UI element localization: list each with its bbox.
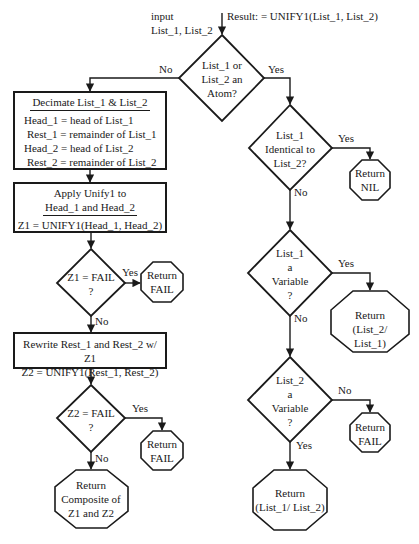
var1-yes-arrow: [332, 273, 370, 290]
decimate-line-3: Head_2 = head of List_2: [16, 141, 164, 155]
z1-yes-label: Yes: [122, 266, 138, 279]
var1-return-line-2: (List_2/ List_1): [346, 322, 395, 350]
atom-no-label: No: [159, 63, 172, 76]
var2-line-1: List_2: [272, 373, 309, 387]
call-signature: Result: = UNIFY1(List_1, List_2): [227, 10, 378, 23]
rewrite-box-text: Rewrite Rest_1 and Rest_2 w/ Z1 Z2 = UNI…: [16, 337, 164, 379]
input-label: input: [151, 10, 174, 23]
var1-return-line-1: Return: [346, 308, 395, 322]
atom-line-1: List_1 or: [201, 58, 242, 72]
z1-return-text: Return FAIL: [147, 268, 177, 296]
apply-box-text: Apply Unify1 to Head_1 and Head_2 Z1 = U…: [16, 186, 164, 232]
var2-line-3: Variable: [272, 401, 309, 415]
z1-no-label: No: [95, 315, 108, 328]
var1-decision-text: List_1 a Variable ?: [272, 246, 309, 302]
var1-line-3: Variable: [272, 274, 309, 288]
rewrite-line-1: Rewrite Rest_1 and Rest_2 w/ Z1: [16, 337, 164, 365]
var2-no-arrow: [332, 400, 370, 412]
var1-line-2: a: [272, 260, 309, 274]
var1-no-label: No: [294, 312, 307, 325]
var2-return-text: Return (List_1/ List_2): [255, 486, 324, 514]
var2-fail-return-text: Return FAIL: [355, 420, 385, 448]
atom-line-2: List_2 an: [201, 72, 242, 86]
z1-line-1: Z1 = FAIL: [67, 270, 115, 284]
atom-yes-arrow: [264, 78, 290, 104]
identical-yes-label: Yes: [338, 132, 354, 145]
atom-decision-text: List_1 or List_2 an Atom?: [201, 58, 242, 100]
composite-return-text: Return Composite of Z1 and Z2: [61, 478, 121, 520]
var1-yes-label: Yes: [338, 257, 354, 270]
var2-decision-text: List_2 a Variable ?: [272, 373, 309, 429]
apply-formula: Z1 = UNIFY1(Head_1, Head_2): [16, 218, 164, 232]
z1-return-line-2: FAIL: [147, 282, 177, 296]
z1-decision-text: Z1 = FAIL ?: [67, 270, 115, 298]
nil-return-text: Return NIL: [355, 166, 385, 194]
var1-line-1: List_1: [272, 246, 309, 260]
var2-no-label: No: [338, 384, 351, 397]
decimate-line-1: Head_1 = head of List_1: [16, 113, 164, 127]
identical-no-label: No: [294, 186, 307, 199]
z2-decision-text: Z2 = FAIL ?: [67, 406, 115, 434]
var1-line-4: ?: [272, 288, 309, 302]
z2-line-2: ?: [67, 420, 115, 434]
decimate-line-4: Rest_2 = remainder of List_2: [16, 155, 164, 169]
atom-line-3: Atom?: [201, 86, 242, 100]
identical-decision-text: List_1 Identical to List_2?: [265, 128, 315, 170]
var2-fail-line-2: FAIL: [355, 434, 385, 448]
atom-no-arrow: [90, 78, 179, 91]
var2-line-2: a: [272, 387, 309, 401]
var1-return-text: Return (List_2/ List_1): [346, 308, 395, 350]
atom-yes-label: Yes: [268, 63, 284, 76]
var2-yes-label: Yes: [296, 439, 312, 452]
nil-return-line-1: Return: [355, 166, 385, 180]
z1-return-line-1: Return: [147, 268, 177, 282]
decimate-line-2: Rest_1 = remainder of List_1: [16, 127, 164, 141]
z2-line-1: Z2 = FAIL: [67, 406, 115, 420]
z2-no-label: No: [95, 452, 108, 465]
decimate-title: Decimate List_1 & List_2: [30, 95, 149, 111]
identical-line-1: List_1: [265, 128, 315, 142]
z2-return-text: Return FAIL: [147, 437, 177, 465]
z2-yes-arrow: [125, 418, 162, 430]
nil-return-line-2: NIL: [355, 180, 385, 194]
var2-fail-line-1: Return: [355, 420, 385, 434]
z2-yes-label: Yes: [132, 402, 148, 415]
var2-line-4: ?: [272, 415, 309, 429]
rewrite-line-2: Z2 = UNIFY1(Rest_1, Rest_2): [16, 365, 164, 379]
var2-return-line-1: Return: [255, 486, 324, 500]
composite-line-1: Return: [61, 478, 121, 492]
identical-yes-arrow: [332, 148, 370, 159]
identical-line-3: List_2?: [265, 156, 315, 170]
input-args: List_1, List_2: [151, 24, 213, 37]
z2-return-line-2: FAIL: [147, 451, 177, 465]
z1-line-2: ?: [67, 284, 115, 298]
identical-line-2: Identical to: [265, 142, 315, 156]
apply-line-1: Apply Unify1 to: [16, 186, 164, 200]
apply-line-2: Head_1 and Head_2: [43, 200, 137, 216]
composite-line-2: Composite of: [61, 492, 121, 506]
decimate-box-text: Decimate List_1 & List_2 Head_1 = head o…: [16, 95, 164, 169]
var2-return-line-2: (List_1/ List_2): [255, 500, 324, 514]
composite-line-3: Z1 and Z2: [61, 506, 121, 520]
z2-return-line-1: Return: [147, 437, 177, 451]
